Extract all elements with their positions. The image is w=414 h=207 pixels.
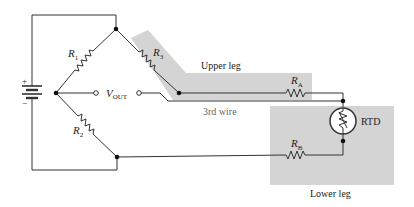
- node-left: [54, 91, 59, 96]
- vout-terminal-left: [94, 91, 99, 96]
- third-wire-label: 3rd wire: [203, 106, 237, 117]
- vout-label: VOUT: [106, 87, 128, 101]
- battery-plus-label: +: [22, 76, 27, 86]
- wire-r2-b: [93, 134, 117, 157]
- node-top: [114, 27, 119, 32]
- node-r3-right: [177, 91, 182, 96]
- upper-leg-label: Upper leg: [201, 60, 241, 71]
- lower-leg-label: Lower leg: [310, 188, 351, 199]
- vout-terminal-right: [137, 91, 142, 96]
- wire-r2-a: [56, 93, 78, 116]
- node-bottom: [115, 155, 120, 160]
- battery-minus-label: −: [22, 98, 27, 108]
- wire-r1-a: [56, 70, 75, 93]
- rtd-bridge-diagram: + − R1 R2 R3 RA RB VOUT Upper leg 3rd wi…: [0, 0, 414, 207]
- r1-label: R1: [67, 47, 79, 62]
- wire-r1-b: [93, 29, 116, 51]
- wire-lower-leg: [117, 155, 286, 157]
- rtd-label: RTD: [361, 116, 380, 127]
- node-rtd-bottom: [341, 139, 346, 144]
- r2-label: R2: [72, 124, 84, 139]
- node-rtd-top: [341, 99, 346, 104]
